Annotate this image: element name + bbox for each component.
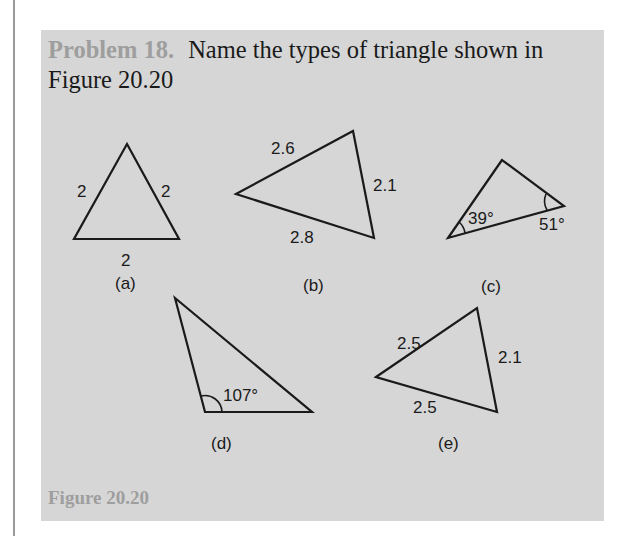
figure-part-label: (d) [211, 434, 232, 453]
figure-part-label: (b) [303, 276, 324, 295]
side-label: 2.5 [397, 334, 421, 353]
side-label: 2.1 [498, 348, 522, 367]
figure-part-label: (e) [438, 434, 459, 453]
figure-part-label: (c) [481, 277, 501, 296]
angle-label: 107° [223, 386, 258, 405]
side-label: 2 [77, 182, 86, 201]
triangle-e [376, 308, 497, 412]
triangle-b [236, 131, 374, 238]
angle-arc-39 [459, 222, 465, 233]
side-label: 2 [161, 182, 170, 201]
figure-caption: Figure 20.20 [48, 487, 149, 509]
side-label: 2 [121, 251, 130, 270]
triangles-figure: 2 2 2 (a) 2.6 2.1 2.8 (b) 39° 51° (c) 10… [0, 0, 626, 538]
side-label: 2.6 [271, 139, 295, 158]
angle-arc-51 [545, 194, 547, 210]
figure-part-label: (a) [115, 274, 136, 293]
angle-label: 51° [539, 215, 565, 234]
side-label: 2.8 [290, 228, 314, 247]
side-label: 2.5 [413, 398, 437, 417]
angle-label: 39° [468, 209, 494, 228]
side-label: 2.1 [373, 176, 397, 195]
